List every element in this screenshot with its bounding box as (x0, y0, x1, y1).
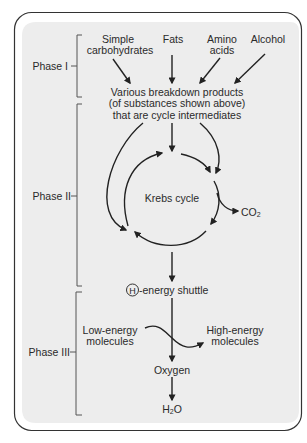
phase-3-label: Phase III (29, 346, 70, 358)
krebs-cycle-label: Krebs cycle (145, 192, 199, 204)
low-energy-line2: molecules (86, 335, 133, 347)
phase-2-label: Phase II (32, 190, 71, 202)
phase-1-label: Phase I (32, 60, 68, 72)
shuttle-symbol: H (129, 286, 136, 296)
shuttle-label: -energy shuttle (139, 284, 209, 296)
oxygen-label: Oxygen (154, 364, 190, 376)
metabolism-diagram: Phase I Phase II Phase III Simple carboh… (0, 0, 307, 443)
products-line3: that are cycle intermediates (113, 109, 241, 121)
source-alcohol: Alcohol (251, 33, 285, 45)
inner-panel (22, 22, 299, 423)
source-simple-carbohydrates-line2: carbohydrates (87, 44, 154, 56)
products-line2: (of substances shown above) (109, 97, 246, 109)
high-energy-line2: molecules (211, 335, 258, 347)
source-fats: Fats (163, 33, 183, 45)
source-amino-acids-line2: acids (210, 44, 235, 56)
